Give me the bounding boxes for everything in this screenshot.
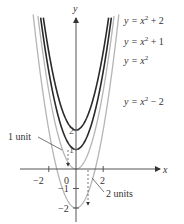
svg-text:y = x2 − 2: y = x2 − 2 bbox=[123, 95, 164, 107]
x-tick-label-2: 2 bbox=[100, 175, 105, 186]
y-tick-label-minus1: −1 bbox=[58, 183, 69, 194]
y-tick-label-2: 2 bbox=[69, 125, 74, 136]
annotation-2-units: 2 units bbox=[106, 188, 133, 199]
y-axis-label: y bbox=[72, 3, 78, 14]
x-axis-label: x bbox=[162, 164, 168, 175]
svg-text:y = x2 + 1: y = x2 + 1 bbox=[123, 35, 164, 47]
curve-label-x2-plus-1: y = x2 + 1 bbox=[123, 35, 164, 47]
curve-label-x2-minus-2: y = x2 − 2 bbox=[123, 95, 164, 107]
annotation-1-unit: 1 unit bbox=[8, 131, 31, 142]
curve-label-x2-plus-2: y = x2 + 2 bbox=[123, 14, 164, 26]
svg-text:y = x2: y = x2 bbox=[123, 54, 149, 66]
svg-text:y = x2 + 2: y = x2 + 2 bbox=[123, 14, 164, 26]
y-tick-label-minus2: −2 bbox=[58, 203, 69, 214]
x-tick-label-minus2: −2 bbox=[33, 175, 44, 186]
y-tick-label-1: 1 bbox=[69, 144, 74, 155]
parabola-shift-chart: y x −2 0 2 1 2 −1 −2 y = x2 + 2 y = x2 +… bbox=[0, 0, 184, 224]
curve-label-x2: y = x2 bbox=[123, 54, 149, 66]
